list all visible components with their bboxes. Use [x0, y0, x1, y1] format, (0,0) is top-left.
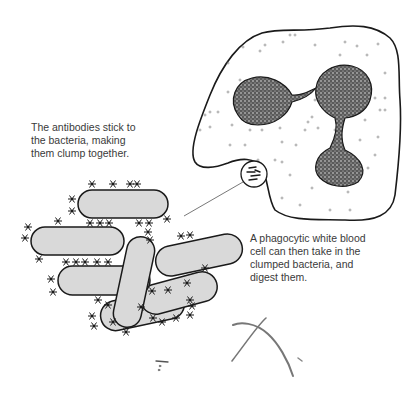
antibodies-caption: The antibodies stick to the bacteria, ma…: [31, 121, 151, 160]
cell-membrane: [193, 26, 401, 220]
phagocyte-caption: A phagocytic white blood cell can then t…: [250, 232, 380, 284]
pointer-line: [184, 182, 243, 216]
phagocytic-vacuole: [241, 161, 267, 187]
digested-debris: [156, 318, 302, 376]
bacterium: [78, 190, 168, 218]
diagram-canvas: [0, 0, 413, 401]
bacterium: [31, 227, 124, 255]
white-blood-cell: [193, 26, 401, 220]
